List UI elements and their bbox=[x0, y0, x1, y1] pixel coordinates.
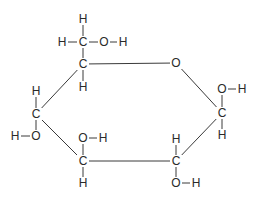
atom-h_c2: H bbox=[170, 133, 182, 145]
atom-c1: C bbox=[216, 107, 228, 119]
atom-o6: O bbox=[98, 36, 110, 48]
atom-o3: O bbox=[77, 132, 89, 144]
bond-c3-c4 bbox=[40, 118, 79, 157]
bond-o_ring-c1 bbox=[180, 67, 218, 108]
bond-c5-o_ring bbox=[89, 63, 170, 64]
atom-c4: C bbox=[30, 108, 42, 120]
atom-h_o2: H bbox=[190, 177, 202, 189]
atom-o4: O bbox=[30, 130, 42, 142]
atom-h_o1: H bbox=[236, 83, 248, 95]
atom-o2: O bbox=[170, 177, 182, 189]
atom-h_c5: H bbox=[77, 81, 89, 93]
atom-h_o4: H bbox=[9, 130, 21, 142]
bond-c4-c5 bbox=[40, 68, 79, 109]
atom-h_c1: H bbox=[216, 129, 228, 141]
atom-c2: C bbox=[170, 155, 182, 167]
atom-o1: O bbox=[216, 83, 228, 95]
atom-h_o3: H bbox=[97, 132, 109, 144]
atom-o_ring: O bbox=[170, 57, 182, 69]
atom-h_o6: H bbox=[117, 36, 129, 48]
atom-h_c6_left: H bbox=[56, 36, 68, 48]
atom-h_c4: H bbox=[30, 85, 42, 97]
bond-layer bbox=[0, 0, 267, 201]
atom-h_top: H bbox=[77, 13, 89, 25]
bond-c1-c2 bbox=[180, 117, 218, 156]
glucose-structure-diagram: HHCOHCHOOHCHHCHOOHCHHCOH bbox=[0, 0, 267, 201]
atom-c5: C bbox=[77, 58, 89, 70]
atom-c6: C bbox=[77, 36, 89, 48]
atom-c3: C bbox=[77, 155, 89, 167]
atom-h_c3: H bbox=[77, 177, 89, 189]
